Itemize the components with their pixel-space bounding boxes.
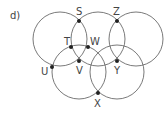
circles-group bbox=[33, 12, 163, 99]
point-label: Y bbox=[113, 65, 121, 76]
point-dot bbox=[77, 19, 81, 23]
point-label: T bbox=[63, 36, 71, 47]
point-dot bbox=[115, 59, 119, 63]
circle-intersection-diagram: d) SZTWVYUX bbox=[0, 0, 164, 120]
point-dot bbox=[115, 19, 119, 23]
point-dot bbox=[96, 91, 100, 95]
point-label: X bbox=[94, 98, 101, 109]
point-label: U bbox=[41, 66, 48, 77]
point-v: V bbox=[76, 59, 83, 76]
point-y: Y bbox=[113, 59, 121, 76]
point-dot bbox=[77, 59, 81, 63]
point-label: V bbox=[76, 65, 83, 76]
point-label: W bbox=[90, 36, 100, 47]
point-label: S bbox=[76, 6, 82, 17]
point-w: W bbox=[86, 36, 100, 49]
point-dot bbox=[50, 65, 54, 69]
point-z: Z bbox=[113, 6, 120, 23]
point-label: Z bbox=[113, 6, 120, 17]
figure-label: d) bbox=[10, 10, 20, 21]
point-s: S bbox=[76, 6, 82, 23]
